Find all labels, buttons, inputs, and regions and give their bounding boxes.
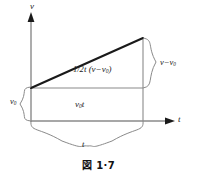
- bottom-brace-t: [31, 121, 88, 147]
- triangle-area-paren: ): [108, 64, 111, 74]
- delta-velocity-label: v−v0: [160, 58, 176, 67]
- velocity-line: [31, 38, 143, 88]
- rect-area-t: t: [82, 99, 85, 109]
- delta-velocity-expression: v−v: [160, 57, 173, 67]
- left-brace-v0: [20, 87, 31, 121]
- initial-velocity-label: v0: [10, 97, 16, 106]
- figure-container: v t 1/2t (v−v0) v0t v0 v−v0 t 図 1·7: [0, 0, 197, 179]
- y-axis-label: v: [30, 2, 34, 11]
- velocity-time-diagram: [0, 0, 197, 179]
- figure-caption: 図 1·7: [0, 157, 197, 172]
- delta-velocity-subscript: 0: [173, 61, 176, 67]
- x-axis: [31, 118, 175, 125]
- right-brace-delta-v: [143, 38, 156, 88]
- x-axis-label: t: [178, 115, 181, 124]
- initial-velocity-subscript: 0: [14, 100, 17, 106]
- time-brace-label: t: [82, 140, 84, 149]
- bottom-brace-t-right: [88, 121, 143, 147]
- one-half-fraction: 1/2: [73, 64, 84, 74]
- y-axis: [28, 12, 35, 122]
- triangle-area-expression: t (v−v: [84, 64, 106, 74]
- rectangle-area-label: v0t: [75, 100, 84, 110]
- triangle-area-label: 1/2t (v−v0): [73, 65, 111, 75]
